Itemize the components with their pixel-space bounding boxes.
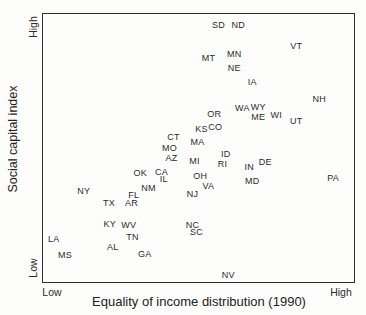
x-axis-title: Equality of income distribution (1990) bbox=[92, 294, 306, 309]
point-SC: SC bbox=[190, 228, 203, 237]
plot-area: SDNDVTMNMTNEIANHWYWAORWIMEUTCOKSCTMAMOID… bbox=[42, 13, 355, 283]
point-RI: RI bbox=[218, 160, 228, 169]
point-MA: MA bbox=[191, 138, 205, 147]
point-NV: NV bbox=[222, 271, 235, 280]
point-OK: OK bbox=[134, 168, 148, 177]
point-NM: NM bbox=[141, 183, 156, 192]
point-OR: OR bbox=[207, 110, 221, 119]
point-VT: VT bbox=[290, 41, 302, 50]
point-CO: CO bbox=[208, 123, 222, 132]
x-axis-low-label: Low bbox=[42, 286, 61, 298]
point-NJ: NJ bbox=[187, 189, 199, 198]
point-PA: PA bbox=[327, 173, 339, 182]
y-axis-low-label: Low bbox=[27, 258, 39, 277]
y-axis-title: Social capital index bbox=[6, 85, 20, 192]
point-MT: MT bbox=[202, 53, 216, 62]
point-MN: MN bbox=[227, 49, 242, 58]
point-AL: AL bbox=[107, 243, 119, 252]
point-WV: WV bbox=[121, 221, 136, 230]
point-MS: MS bbox=[58, 251, 72, 260]
point-ID: ID bbox=[221, 149, 231, 158]
point-OH: OH bbox=[193, 171, 207, 180]
point-KY: KY bbox=[104, 220, 117, 229]
point-UT: UT bbox=[290, 117, 303, 126]
point-AZ: AZ bbox=[165, 154, 177, 163]
point-WA: WA bbox=[235, 104, 250, 113]
y-axis-high-label: High bbox=[27, 16, 39, 38]
point-ND: ND bbox=[232, 20, 246, 29]
point-CT: CT bbox=[167, 133, 180, 142]
point-WY: WY bbox=[251, 103, 266, 112]
point-SD: SD bbox=[212, 20, 225, 29]
point-IL: IL bbox=[160, 174, 168, 183]
point-NE: NE bbox=[228, 63, 241, 72]
point-MO: MO bbox=[162, 144, 177, 153]
point-NH: NH bbox=[312, 95, 326, 104]
point-VA: VA bbox=[203, 181, 215, 190]
point-DE: DE bbox=[259, 157, 272, 166]
point-MI: MI bbox=[189, 156, 200, 165]
point-KS: KS bbox=[195, 125, 208, 134]
point-IA: IA bbox=[248, 77, 257, 86]
scatter-figure: Social capital index High Low SDNDVTMNMT… bbox=[0, 0, 366, 315]
point-NY: NY bbox=[77, 186, 90, 195]
point-AR: AR bbox=[125, 198, 138, 207]
point-ME: ME bbox=[251, 113, 265, 122]
point-LA: LA bbox=[48, 235, 60, 244]
point-TX: TX bbox=[103, 199, 115, 208]
point-TN: TN bbox=[126, 233, 139, 242]
point-WI: WI bbox=[271, 111, 283, 120]
x-axis-high-label: High bbox=[330, 286, 352, 298]
point-MD: MD bbox=[245, 176, 260, 185]
point-GA: GA bbox=[138, 250, 152, 259]
point-IN: IN bbox=[244, 162, 254, 171]
